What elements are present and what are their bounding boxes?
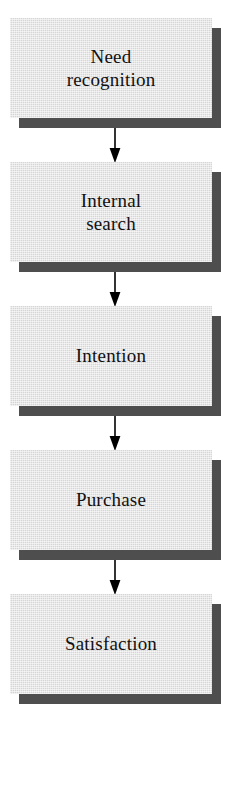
arrow-down-icon [108,272,122,308]
box-face: Need recognition [10,18,212,118]
process-step-internal-search[interactable]: Internal search [10,162,212,262]
arrow-down-icon [108,416,122,452]
step-label: Internal search [75,189,148,235]
arrow-purchase-to-satisfaction [108,560,122,596]
flowchart-canvas: Need recognition Internal search Intenti… [0,0,236,795]
step-label: Intention [70,344,152,367]
arrow-intention-to-purchase [108,416,122,452]
process-step-purchase[interactable]: Purchase [10,450,212,550]
process-step-intention[interactable]: Intention [10,306,212,406]
process-step-satisfaction[interactable]: Satisfaction [10,594,212,694]
process-step-need-recognition[interactable]: Need recognition [10,18,212,118]
step-label: Need recognition [61,45,162,91]
box-face: Intention [10,306,212,406]
arrow-search-to-intention [108,272,122,308]
box-face: Internal search [10,162,212,262]
step-label: Satisfaction [59,632,163,655]
step-label: Purchase [70,488,152,511]
arrow-down-icon [108,128,122,164]
box-face: Satisfaction [10,594,212,694]
box-face: Purchase [10,450,212,550]
arrow-need-to-search [108,128,122,164]
arrow-down-icon [108,560,122,596]
